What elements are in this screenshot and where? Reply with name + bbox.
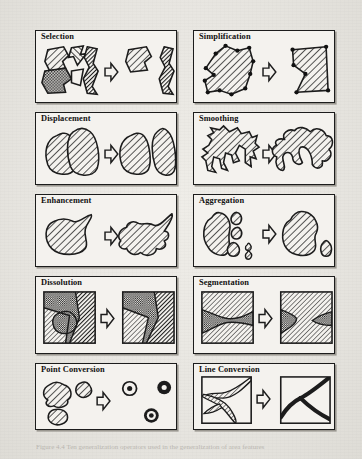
dissolution-before-map — [44, 292, 95, 343]
aggregation-before-group — [204, 212, 252, 259]
panel-art-smoothing — [194, 124, 334, 184]
panel-label-smoothing: Smoothing — [199, 114, 239, 123]
arrow-icon-dissolution — [101, 310, 114, 328]
arrow-icon-simplification — [263, 63, 276, 80]
panel-enhancement[interactable]: Enhancement — [35, 194, 177, 267]
panel-label-selection: Selection — [41, 32, 74, 41]
panel-point-conversion[interactable]: Point Conversion — [35, 363, 177, 430]
point-conversion-after-group — [123, 381, 171, 423]
panel-label-line-conversion: Line Conversion — [199, 365, 260, 374]
panel-label-aggregation: Aggregation — [199, 196, 244, 205]
selection-before-group — [42, 46, 98, 94]
segmentation-after-map — [281, 292, 332, 343]
simplification-before-group — [203, 44, 256, 97]
panel-art-displacement — [36, 124, 176, 184]
panel-art-selection — [36, 42, 176, 102]
panel-label-dissolution: Dissolution — [41, 278, 82, 287]
panel-label-point-conversion: Point Conversion — [41, 365, 105, 374]
line-conversion-after-map — [281, 377, 330, 423]
selection-after-group — [126, 47, 174, 94]
panel-aggregation[interactable]: Aggregation — [193, 194, 335, 267]
segmentation-before-map — [202, 292, 253, 343]
panel-art-simplification — [194, 42, 334, 102]
panel-displacement[interactable]: Displacement — [35, 112, 177, 185]
panel-label-segmentation: Segmentation — [199, 278, 249, 287]
panel-selection[interactable]: Selection — [35, 30, 177, 103]
arrow-icon-line-conversion — [257, 390, 270, 407]
panel-label-simplification: Simplification — [199, 32, 251, 41]
panel-smoothing[interactable]: Smoothing — [193, 112, 335, 185]
dissolution-after-map — [123, 292, 174, 343]
simplification-after-group — [290, 45, 330, 95]
panel-art-segmentation — [194, 288, 334, 353]
enhancement-before-group — [46, 215, 92, 255]
arrow-icon-displacement — [105, 145, 118, 162]
enhancement-after-group — [119, 214, 173, 256]
smoothing-before-group — [202, 126, 259, 172]
aggregation-after-group — [283, 211, 332, 256]
figure-generalization-operators: Selection — [35, 30, 335, 430]
panel-simplification[interactable]: Simplification — [193, 30, 335, 103]
panel-art-aggregation — [194, 206, 334, 266]
line-conversion-before-map — [202, 377, 251, 423]
panel-dissolution[interactable]: Dissolution — [35, 276, 177, 354]
panel-art-line-conversion — [194, 375, 334, 429]
panel-segmentation[interactable]: Segmentation — [193, 276, 335, 354]
figure-caption: Figure 4.4 Ten generalization operators … — [36, 443, 336, 452]
arrow-icon-aggregation — [263, 225, 276, 242]
panel-line-conversion[interactable]: Line Conversion — [193, 363, 335, 430]
panel-label-displacement: Displacement — [41, 114, 91, 123]
smoothing-after-group — [272, 127, 332, 170]
arrow-icon-point-conversion — [97, 392, 110, 409]
arrow-icon-enhancement — [105, 227, 118, 244]
displacement-before-group — [46, 128, 99, 175]
panel-art-enhancement — [36, 206, 176, 266]
arrow-icon-segmentation — [259, 310, 272, 328]
arrow-icon-selection — [105, 63, 118, 80]
panel-art-dissolution — [36, 288, 176, 353]
panel-label-enhancement: Enhancement — [41, 196, 91, 205]
scanned-page: Selection — [0, 0, 362, 459]
panel-art-point-conversion — [36, 375, 176, 429]
point-conversion-before-group — [44, 382, 92, 425]
displacement-after-group — [120, 128, 176, 175]
